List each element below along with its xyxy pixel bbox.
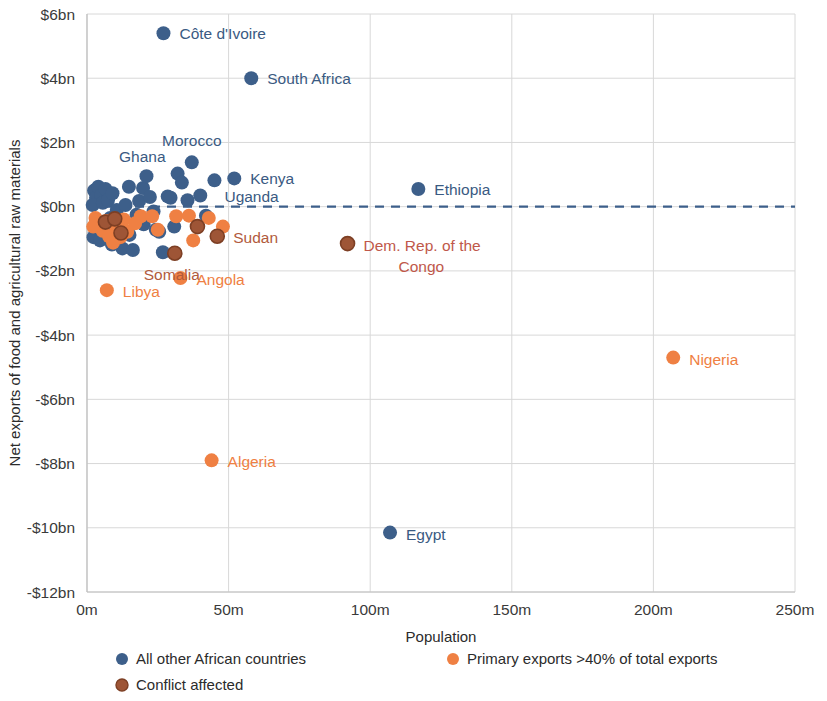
- point-label: Morocco: [162, 132, 221, 149]
- data-point: [119, 198, 133, 212]
- x-tick-label: 50m: [214, 601, 244, 618]
- data-point: [185, 155, 199, 169]
- data-point: [227, 171, 241, 185]
- point-label: Ethiopia: [434, 181, 490, 198]
- chart-legend: All other African countriesPrimary expor…: [116, 650, 718, 693]
- y-tick-label: -$12bn: [27, 584, 75, 601]
- data-point: [383, 526, 397, 540]
- data-point: [205, 453, 219, 467]
- chart-canvas: $6bn$4bn$2bn$0bn-$2bn-$4bn-$6bn-$8bn-$10…: [0, 0, 827, 701]
- data-point: [411, 182, 425, 196]
- point-label: Libya: [123, 283, 160, 300]
- point-label: Algeria: [228, 453, 277, 470]
- x-axis-tick-labels: 0m50m100m150m200m250m: [76, 601, 814, 618]
- y-axis-title: Net exports of food and agricultural raw…: [6, 140, 23, 467]
- y-tick-label: $6bn: [41, 6, 75, 23]
- data-point: [143, 190, 157, 204]
- y-tick-label: $4bn: [41, 70, 75, 87]
- data-point: [156, 26, 170, 40]
- y-tick-label: $0bn: [41, 198, 75, 215]
- x-tick-label: 200m: [634, 601, 673, 618]
- data-point: [175, 176, 189, 190]
- data-point: [181, 193, 195, 207]
- point-label: Kenya: [250, 170, 294, 187]
- legend-marker-conflict[interactable]: [116, 679, 128, 691]
- y-tick-label: -$6bn: [35, 391, 75, 408]
- legend-label-other[interactable]: All other African countries: [136, 650, 306, 667]
- point-label: Nigeria: [689, 351, 738, 368]
- data-point: [108, 212, 122, 226]
- data-point: [168, 246, 182, 260]
- legend-marker-primary[interactable]: [447, 653, 459, 665]
- y-tick-label: -$10bn: [27, 519, 75, 536]
- data-point: [666, 351, 680, 365]
- data-point: [169, 209, 183, 223]
- data-point: [190, 220, 204, 234]
- data-point: [186, 233, 200, 247]
- data-point: [151, 223, 165, 237]
- point-label: Dem. Rep. of theCongo: [364, 237, 481, 275]
- x-axis-title: Population: [406, 628, 477, 645]
- grid-lines: [87, 14, 795, 592]
- x-tick-label: 100m: [351, 601, 390, 618]
- scatter-chart-figure: $6bn$4bn$2bn$0bn-$2bn-$4bn-$6bn-$8bn-$10…: [0, 0, 827, 701]
- point-label: Sudan: [233, 229, 278, 246]
- legend-marker-other[interactable]: [116, 653, 128, 665]
- point-label: Uganda: [224, 188, 279, 205]
- data-point: [207, 173, 221, 187]
- y-tick-label: -$4bn: [35, 327, 75, 344]
- data-point: [100, 283, 114, 297]
- data-point: [244, 71, 258, 85]
- x-tick-label: 250m: [776, 601, 815, 618]
- data-point: [164, 191, 178, 205]
- point-label: Angola: [196, 271, 245, 288]
- data-point: [139, 169, 153, 183]
- data-point: [210, 229, 224, 243]
- point-label: Côte d'Ivoire: [179, 25, 266, 42]
- point-label: Somalia: [144, 266, 200, 283]
- legend-label-conflict[interactable]: Conflict affected: [136, 676, 243, 693]
- data-point: [145, 209, 159, 223]
- axis-titles: PopulationNet exports of food and agricu…: [6, 140, 476, 645]
- y-tick-label: -$2bn: [35, 262, 75, 279]
- point-label: South Africa: [267, 70, 351, 87]
- data-point: [114, 226, 128, 240]
- data-point: [193, 188, 207, 202]
- data-point: [341, 237, 355, 251]
- point-label: Ghana: [119, 148, 166, 165]
- y-tick-label: -$8bn: [35, 455, 75, 472]
- legend-label-primary[interactable]: Primary exports >40% of total exports: [467, 650, 718, 667]
- x-tick-label: 0m: [76, 601, 98, 618]
- data-point: [105, 186, 119, 200]
- data-point: [126, 243, 140, 257]
- data-point: [122, 180, 136, 194]
- y-tick-label: $2bn: [41, 134, 75, 151]
- point-label: Egypt: [406, 526, 446, 543]
- x-tick-label: 150m: [492, 601, 531, 618]
- y-axis-tick-labels: $6bn$4bn$2bn$0bn-$2bn-$4bn-$6bn-$8bn-$10…: [27, 6, 75, 601]
